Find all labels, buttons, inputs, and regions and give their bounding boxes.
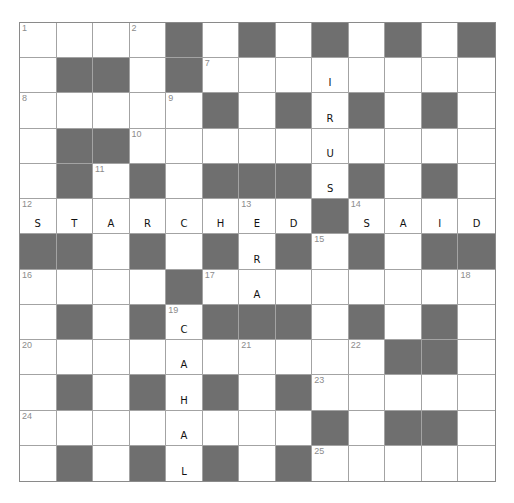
answer-cell[interactable]: [458, 375, 495, 410]
answer-cell[interactable]: 20: [20, 340, 57, 375]
answer-cell[interactable]: [20, 129, 57, 164]
answer-cell[interactable]: [57, 93, 94, 128]
answer-cell[interactable]: [203, 129, 240, 164]
answer-cell[interactable]: [349, 411, 386, 446]
answer-cell[interactable]: 24: [20, 411, 57, 446]
answer-cell[interactable]: [458, 411, 495, 446]
answer-cell[interactable]: 12S: [20, 199, 57, 234]
answer-cell[interactable]: 19C: [166, 305, 203, 340]
answer-cell[interactable]: [20, 446, 57, 481]
answer-cell[interactable]: [130, 93, 167, 128]
answer-cell[interactable]: [385, 270, 422, 305]
answer-cell[interactable]: [349, 375, 386, 410]
answer-cell[interactable]: 17: [203, 270, 240, 305]
answer-cell[interactable]: 25: [312, 446, 349, 481]
answer-cell[interactable]: H: [166, 375, 203, 410]
answer-cell[interactable]: [349, 446, 386, 481]
answer-cell[interactable]: L: [166, 446, 203, 481]
answer-cell[interactable]: C: [166, 199, 203, 234]
answer-cell[interactable]: [203, 411, 240, 446]
answer-cell[interactable]: [385, 129, 422, 164]
answer-cell[interactable]: 18: [458, 270, 495, 305]
answer-cell[interactable]: 23: [312, 375, 349, 410]
answer-cell[interactable]: [349, 129, 386, 164]
answer-cell[interactable]: [422, 270, 459, 305]
answer-cell[interactable]: [458, 164, 495, 199]
answer-cell[interactable]: 7: [203, 58, 240, 93]
answer-cell[interactable]: [312, 305, 349, 340]
answer-cell[interactable]: [349, 58, 386, 93]
answer-cell[interactable]: D: [276, 199, 313, 234]
answer-cell[interactable]: 16: [20, 270, 57, 305]
answer-cell[interactable]: [385, 234, 422, 269]
answer-cell[interactable]: 14S: [349, 199, 386, 234]
answer-cell[interactable]: 10: [130, 129, 167, 164]
answer-cell[interactable]: [57, 23, 94, 58]
answer-cell[interactable]: S: [312, 164, 349, 199]
answer-cell[interactable]: [276, 411, 313, 446]
answer-cell[interactable]: [276, 129, 313, 164]
answer-cell[interactable]: A: [166, 340, 203, 375]
answer-cell[interactable]: [422, 446, 459, 481]
answer-cell[interactable]: [239, 93, 276, 128]
answer-cell[interactable]: [166, 164, 203, 199]
answer-cell[interactable]: [458, 129, 495, 164]
answer-cell[interactable]: R: [130, 199, 167, 234]
answer-cell[interactable]: [93, 446, 130, 481]
answer-cell[interactable]: [276, 270, 313, 305]
answer-cell[interactable]: [203, 340, 240, 375]
answer-cell[interactable]: [93, 305, 130, 340]
answer-cell[interactable]: [130, 58, 167, 93]
answer-cell[interactable]: [239, 411, 276, 446]
answer-cell[interactable]: D: [458, 199, 495, 234]
answer-cell[interactable]: [93, 93, 130, 128]
answer-cell[interactable]: 22: [349, 340, 386, 375]
answer-cell[interactable]: R: [239, 234, 276, 269]
answer-cell[interactable]: [57, 270, 94, 305]
answer-cell[interactable]: 21: [239, 340, 276, 375]
answer-cell[interactable]: [385, 93, 422, 128]
answer-cell[interactable]: [422, 58, 459, 93]
answer-cell[interactable]: [239, 58, 276, 93]
answer-cell[interactable]: [458, 93, 495, 128]
answer-cell[interactable]: [385, 305, 422, 340]
answer-cell[interactable]: [239, 129, 276, 164]
answer-cell[interactable]: [166, 129, 203, 164]
answer-cell[interactable]: I: [312, 58, 349, 93]
answer-cell[interactable]: A: [385, 199, 422, 234]
answer-cell[interactable]: [239, 446, 276, 481]
answer-cell[interactable]: [312, 270, 349, 305]
answer-cell[interactable]: [57, 340, 94, 375]
answer-cell[interactable]: [239, 375, 276, 410]
answer-cell[interactable]: A: [166, 411, 203, 446]
answer-cell[interactable]: [458, 446, 495, 481]
answer-cell[interactable]: 11: [93, 164, 130, 199]
answer-cell[interactable]: [422, 375, 459, 410]
answer-cell[interactable]: [276, 23, 313, 58]
answer-cell[interactable]: [458, 305, 495, 340]
answer-cell[interactable]: A: [93, 199, 130, 234]
answer-cell[interactable]: [20, 58, 57, 93]
answer-cell[interactable]: [385, 375, 422, 410]
answer-cell[interactable]: 2: [130, 23, 167, 58]
answer-cell[interactable]: I: [422, 199, 459, 234]
answer-cell[interactable]: [422, 129, 459, 164]
answer-cell[interactable]: 1: [20, 23, 57, 58]
answer-cell[interactable]: [458, 340, 495, 375]
answer-cell[interactable]: [312, 340, 349, 375]
answer-cell[interactable]: [166, 234, 203, 269]
answer-cell[interactable]: R: [312, 93, 349, 128]
answer-cell[interactable]: [385, 164, 422, 199]
answer-cell[interactable]: 9: [166, 93, 203, 128]
answer-cell[interactable]: A: [239, 270, 276, 305]
answer-cell[interactable]: 15: [312, 234, 349, 269]
answer-cell[interactable]: [276, 340, 313, 375]
answer-cell[interactable]: [458, 58, 495, 93]
answer-cell[interactable]: [93, 340, 130, 375]
answer-cell[interactable]: [93, 375, 130, 410]
answer-cell[interactable]: [20, 164, 57, 199]
answer-cell[interactable]: [93, 234, 130, 269]
answer-cell[interactable]: [349, 23, 386, 58]
answer-cell[interactable]: [203, 23, 240, 58]
answer-cell[interactable]: [93, 270, 130, 305]
